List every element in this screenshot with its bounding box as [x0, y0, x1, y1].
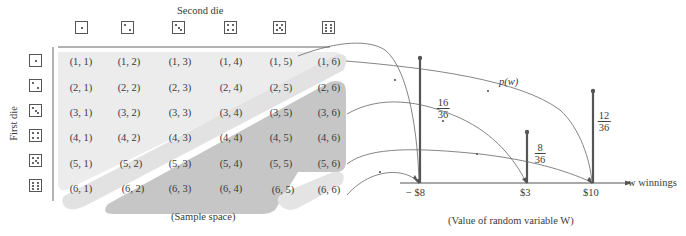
outcome-cell: (5, 2): [120, 158, 143, 169]
outcome-cell: (1, 2): [118, 56, 141, 67]
outcome-cell: (1, 5): [270, 56, 293, 67]
die-face-3-icon: [172, 21, 185, 34]
axis-label: w winnings: [628, 177, 677, 188]
outcome-cell: (6, 4): [220, 183, 243, 194]
outcome-cell: (1, 3): [169, 56, 192, 67]
die-face-3-icon: [29, 104, 42, 117]
tick-3: $3: [520, 187, 531, 198]
tick-neg8: − $8: [406, 187, 425, 198]
outcome-cell: (4, 6): [318, 132, 341, 143]
outcome-cell: (6, 2): [122, 183, 145, 194]
outcome-cell: (3, 3): [169, 107, 192, 118]
die-face-5-icon: [273, 21, 286, 34]
die-face-1-icon: [29, 54, 42, 67]
outcome-cell: (4, 3): [169, 132, 192, 143]
die-face-6-icon: [322, 21, 335, 34]
outcome-cell: (2, 2): [118, 82, 141, 93]
outcome-cell: (5, 4): [220, 158, 243, 169]
outcome-cell: (2, 6): [318, 82, 341, 93]
outcome-cell: (4, 5): [270, 132, 293, 143]
die-face-4-icon: [29, 129, 42, 142]
outcome-cell: (5, 1): [70, 158, 93, 169]
outcome-cell: (6, 5): [272, 184, 295, 195]
outcome-cell: (3, 1): [70, 107, 93, 118]
outcome-cell: (5, 5): [270, 158, 293, 169]
outcome-cell: (2, 5): [270, 82, 293, 93]
random-variable-caption: (Value of random variable W): [448, 215, 574, 226]
first-die-label: First die: [8, 106, 19, 141]
outcome-cell: (2, 4): [220, 82, 243, 93]
outcome-cell: (6, 6): [318, 184, 341, 195]
outcome-cell: (3, 5): [270, 107, 293, 118]
prob-label-10: 12 36: [598, 110, 611, 133]
outcome-cell: (2, 3): [169, 82, 192, 93]
outcome-cell: (3, 2): [118, 107, 141, 118]
die-face-6-icon: [29, 179, 42, 192]
diagram-canvas: [0, 0, 686, 236]
pmf-label: p(w): [499, 76, 518, 87]
outcome-cell: (2, 1): [70, 82, 93, 93]
outcome-cell: (1, 6): [318, 56, 341, 67]
prob-label-neg8: 16 36: [437, 97, 450, 120]
second-die-label: Second die: [177, 5, 223, 16]
outcome-cell: (6, 1): [70, 183, 93, 194]
outcome-cell: (4, 1): [70, 132, 93, 143]
die-face-2-icon: [121, 21, 134, 34]
outcome-cell: (3, 4): [220, 107, 243, 118]
outcome-cell: (5, 6): [318, 158, 341, 169]
die-face-5-icon: [29, 154, 42, 167]
outcome-cell: (5, 3): [169, 158, 192, 169]
outcome-cell: (3, 6): [318, 107, 341, 118]
tick-10: $10: [583, 187, 599, 198]
die-face-1-icon: [75, 21, 88, 34]
outcome-cell: (6, 3): [169, 183, 192, 194]
outcome-cell: (1, 4): [220, 56, 243, 67]
outcome-cell: (4, 4): [220, 132, 243, 143]
outcome-cell: (1, 1): [70, 56, 93, 67]
outcome-cell: (4, 2): [118, 132, 141, 143]
die-face-2-icon: [29, 79, 42, 92]
sample-space-caption: (Sample space): [171, 211, 235, 222]
die-face-4-icon: [224, 21, 237, 34]
prob-label-3: 8 36: [535, 142, 546, 165]
